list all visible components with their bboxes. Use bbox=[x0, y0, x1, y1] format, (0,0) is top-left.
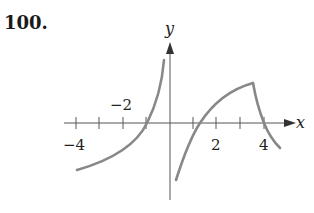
y-axis-label: y bbox=[164, 19, 175, 38]
y-axis-arrow-icon bbox=[166, 42, 174, 54]
x-axis-arrow-icon bbox=[284, 119, 296, 127]
x-tick-label: 2 bbox=[211, 136, 221, 154]
x-axis-label: x bbox=[296, 113, 305, 132]
x-tick-label: −2 bbox=[110, 96, 132, 114]
curve-left-branch bbox=[77, 60, 164, 170]
x-tick-label: 4 bbox=[259, 136, 269, 154]
curve-middle-branch bbox=[176, 83, 253, 180]
graph: −4 −2 2 4 x y bbox=[0, 0, 314, 213]
x-tick-label: −4 bbox=[63, 136, 85, 154]
